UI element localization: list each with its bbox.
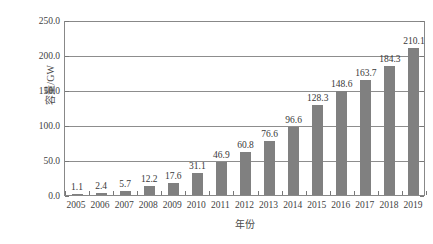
bar [264, 141, 275, 195]
y-tick-label: 0.0 [26, 190, 60, 202]
bar-value-label: 184.3 [373, 53, 407, 65]
y-tick-label: 50.0 [26, 155, 60, 167]
bar [288, 127, 299, 195]
bar [384, 66, 395, 195]
x-tick-label: 2019 [396, 199, 430, 212]
bar [192, 173, 203, 195]
bar-value-label: 60.8 [229, 139, 263, 151]
bar [168, 183, 179, 195]
bar [72, 194, 83, 195]
bar [240, 152, 251, 195]
y-tick-mark [65, 196, 69, 197]
bar-value-label: 31.1 [180, 160, 214, 172]
y-tick-label: 100.0 [26, 120, 60, 132]
y-axis-tick-labels: 0.050.0100.0150.0200.0250.0 [26, 0, 60, 244]
bar [336, 91, 347, 195]
bar-value-label: 76.6 [253, 128, 287, 140]
bar-value-label: 128.3 [301, 92, 335, 104]
bar-value-label: 96.6 [277, 114, 311, 126]
x-axis-tick-labels: 2005200620072008200920102011201220132014… [64, 199, 425, 213]
bar-value-label: 210.1 [397, 35, 431, 47]
bar-chart-figure: 容量/GW 0.050.0100.0150.0200.0250.0 1.12.4… [0, 0, 433, 244]
bar-series: 1.12.45.712.217.631.146.960.876.696.6128… [65, 21, 424, 195]
y-tick-label: 150.0 [26, 85, 60, 97]
bar-value-label: 148.6 [325, 78, 359, 90]
y-tick-label: 200.0 [26, 50, 60, 62]
x-axis-title: 年份 [64, 216, 425, 231]
bar [216, 162, 227, 195]
bar-value-label: 163.7 [349, 67, 383, 79]
bar [312, 105, 323, 195]
bar [96, 193, 107, 195]
bar [360, 80, 371, 195]
y-tick-mark [420, 196, 424, 197]
x-tick-mark [426, 191, 427, 195]
y-tick-label: 250.0 [26, 15, 60, 27]
plot-area: 1.12.45.712.217.631.146.960.876.696.6128… [64, 21, 425, 196]
bar [120, 191, 131, 195]
bar [408, 48, 419, 195]
bar [144, 186, 155, 195]
